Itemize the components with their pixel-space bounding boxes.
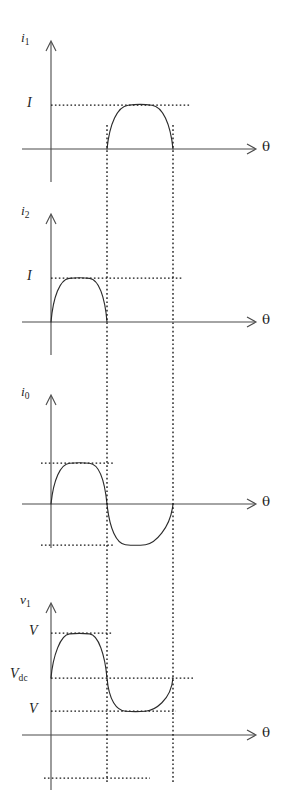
panel-v1-voltage-waveform: [51, 633, 173, 711]
panel-i1-level-I-label: I: [27, 96, 32, 110]
panel-i0: [22, 395, 256, 548]
commutation-guides: [107, 125, 173, 782]
panel-v1-upper-V-label: V: [29, 624, 38, 638]
panel-v1-y-axis-label: ν1: [20, 593, 31, 609]
panel-i1: [22, 41, 256, 182]
panel-i1-y-axis-label: i1: [21, 31, 30, 47]
panel-v1: [22, 603, 256, 790]
panel-i1-x-axis-label: θ: [262, 140, 270, 154]
panel-i2-x-axis-label: θ: [262, 313, 270, 327]
panel-i2-y-axis-label: i2: [21, 204, 30, 220]
panel-i0-x-axis-label: θ: [262, 495, 270, 509]
panel-i2-level-I-label: I: [27, 269, 32, 283]
panel-v1-Vdc-label: Vdc: [10, 667, 28, 683]
panel-v1-x-axis-label: θ: [262, 726, 270, 740]
panel-i2-current-waveform: [51, 278, 107, 322]
panel-i1-current-waveform: [107, 105, 173, 149]
panel-v1-lower-V-label: V: [29, 702, 38, 716]
panel-i0-y-axis-label: i0: [21, 385, 30, 401]
waveform-figure: i1 I θ i2 I θ i0 θ ν1 V Vdc V θ: [0, 0, 284, 810]
waveform-svg-canvas: [0, 0, 284, 810]
panel-i2: [22, 214, 256, 355]
